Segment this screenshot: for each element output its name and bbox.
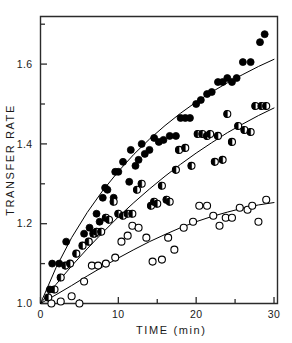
x-tick-label: 10 [112,308,124,320]
x-tick-label: 30 [268,308,280,320]
y-axis-label: TRANSFER RATE [4,104,16,216]
chart-figure: 1.01.21.41.60102030TIME (min)TRANSFER RA… [0,0,292,343]
x-axis-label: TIME (min) [136,324,206,336]
y-tick-label: 1.0 [17,297,33,309]
scatter-plot: 1.01.21.41.60102030TIME (min)TRANSFER RA… [0,0,292,343]
fit-curves [41,59,275,303]
x-tick-label: 0 [37,308,43,320]
axis-text: 1.01.21.41.60102030TIME (min)TRANSFER RA… [4,58,280,336]
x-tick-label: 20 [190,308,202,320]
y-tick-label: 1.6 [17,58,33,70]
y-tick-label: 1.2 [17,217,33,229]
data-points [45,31,270,307]
y-tick-label: 1.4 [17,138,33,150]
